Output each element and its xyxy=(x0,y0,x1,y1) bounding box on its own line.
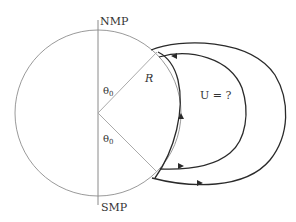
theta-upper-label: θ0 xyxy=(103,85,114,98)
south-pole-label: SMP xyxy=(101,201,128,214)
radius-label: R xyxy=(144,72,153,85)
diagram-canvas: NMP SMP R θ0 θ0 U = ? xyxy=(0,0,296,222)
unknown-energy-label: U = ? xyxy=(200,89,231,102)
north-pole-label: NMP xyxy=(100,15,129,28)
inner-field-loop xyxy=(159,54,246,169)
theta-lower-label: θ0 xyxy=(103,133,114,146)
